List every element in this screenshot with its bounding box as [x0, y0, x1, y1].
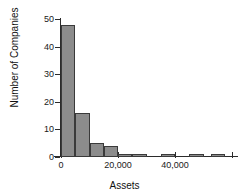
x-tick-label: 20,000 — [88, 161, 148, 170]
x-tick-label: 40,000 — [145, 161, 205, 170]
y-tick-label: 10 — [24, 125, 54, 134]
histogram-bar — [104, 146, 118, 157]
y-tick-mark — [55, 74, 60, 75]
x-tick-mark — [232, 152, 233, 158]
y-tick-label: 30 — [24, 70, 54, 79]
histogram-bar — [75, 113, 89, 157]
histogram-bar — [61, 25, 75, 157]
y-tick-mark — [55, 19, 60, 20]
y-tick-mark — [55, 47, 60, 48]
x-tick-label: 0 — [31, 161, 91, 170]
histogram-bar — [211, 154, 225, 157]
histogram-bar — [132, 154, 146, 157]
y-tick-label: 50 — [24, 15, 54, 24]
x-axis-title: Assets — [0, 180, 249, 191]
plot-area — [61, 19, 232, 157]
y-tick-label: 20 — [24, 98, 54, 107]
histogram-bar — [90, 143, 104, 157]
y-axis-title: Number of Companies — [9, 0, 20, 128]
y-tick-mark — [55, 102, 60, 103]
histogram-bar — [118, 154, 132, 157]
histogram-bar — [161, 154, 175, 157]
y-tick-label: 40 — [24, 43, 54, 52]
y-tick-mark — [55, 157, 60, 158]
y-tick-mark — [55, 129, 60, 130]
histogram-bar — [189, 154, 203, 157]
histogram-figure: 01020304050 020,00040,000 Number of Comp… — [0, 0, 249, 196]
